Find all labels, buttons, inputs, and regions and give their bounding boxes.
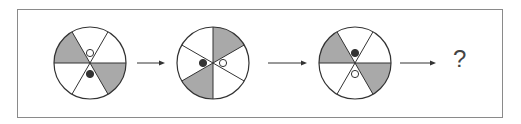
black-dot-icon <box>351 49 358 56</box>
arrow-right-icon <box>159 61 165 66</box>
question-mark: ? <box>453 47 466 71</box>
black-dot-icon <box>86 70 93 77</box>
arrow-right-icon <box>430 61 436 66</box>
white-dot-icon <box>351 70 358 77</box>
white-dot-icon <box>219 59 226 66</box>
white-dot-icon <box>86 49 93 56</box>
black-dot-icon <box>199 59 206 66</box>
arrow-right-icon <box>301 61 307 66</box>
puzzle-diagram <box>0 0 521 124</box>
